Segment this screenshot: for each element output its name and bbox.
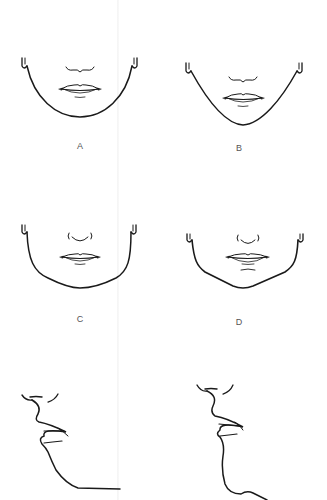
profile-right-drawing: [163, 360, 327, 500]
label-b: B: [229, 143, 249, 153]
label-d: D: [229, 317, 249, 327]
label-c: C: [70, 314, 90, 324]
label-a: A: [70, 141, 90, 151]
profile-left-drawing: [0, 360, 163, 500]
